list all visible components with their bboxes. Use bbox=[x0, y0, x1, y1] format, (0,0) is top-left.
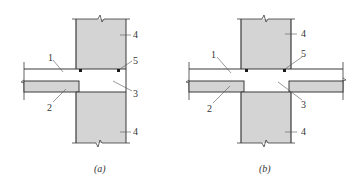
caption-a: (a) bbox=[94, 163, 106, 175]
label-2: 2 bbox=[207, 103, 212, 114]
label-3: 3 bbox=[301, 99, 306, 110]
label-5: 5 bbox=[133, 55, 138, 66]
caption-b: (b) bbox=[259, 163, 271, 175]
floor-slab-right bbox=[289, 81, 343, 92]
leader-line-1 bbox=[53, 60, 63, 72]
rebar-dot bbox=[245, 69, 248, 72]
lower-wall-block bbox=[241, 92, 291, 143]
label-3: 3 bbox=[133, 88, 138, 99]
label-5: 5 bbox=[301, 48, 306, 59]
label-4-bottom: 4 bbox=[133, 126, 138, 137]
panel-b: 1 2 3 4 4 5 (b) bbox=[186, 15, 346, 175]
upper-wall-block bbox=[76, 19, 126, 69]
label-1: 1 bbox=[48, 52, 53, 63]
floor-slab bbox=[24, 81, 79, 92]
rebar-dot bbox=[79, 69, 82, 72]
label-4-bottom: 4 bbox=[301, 126, 306, 137]
leader-line-3 bbox=[113, 81, 132, 91]
leader-line-1 bbox=[217, 57, 231, 73]
lower-wall-block bbox=[76, 92, 126, 143]
rebar-dot bbox=[283, 69, 286, 72]
label-4-top: 4 bbox=[133, 29, 138, 40]
panel-a: 1 2 3 4 4 5 (a) bbox=[21, 15, 138, 175]
upper-wall-block bbox=[241, 19, 291, 69]
label-1: 1 bbox=[211, 49, 216, 60]
label-4-top: 4 bbox=[301, 28, 306, 39]
floor-slab-left bbox=[189, 81, 244, 92]
label-2: 2 bbox=[47, 102, 52, 113]
diagram-canvas: 1 2 3 4 4 5 (a) 1 2 3 4 bbox=[0, 0, 361, 186]
rebar-dot bbox=[117, 69, 120, 72]
